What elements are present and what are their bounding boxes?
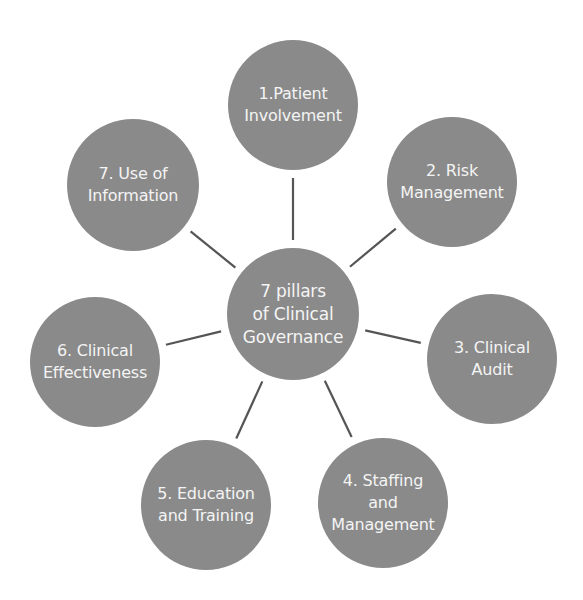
pillar-label-line: Information [88, 185, 178, 207]
pillar-label-line: 7. Use of [88, 163, 178, 185]
pillar-label-line: 1.Patient [244, 83, 342, 105]
pillar-clinical-audit: 3. Clinical Audit [427, 294, 557, 424]
pillar-label-line: Management [331, 514, 434, 536]
pillar-label-line: Effectiveness [43, 362, 147, 384]
connector-line [365, 330, 421, 343]
pillar-label-line: 5. Education [157, 483, 255, 505]
pillar-label-line: Management [400, 182, 503, 204]
connector-line [350, 229, 396, 267]
pillar-label-line: and [331, 492, 434, 514]
connector-line [325, 381, 352, 437]
center-label-line: Governance [243, 326, 344, 349]
connector-line [236, 381, 262, 438]
pillar-clinical-effectiveness: 6. Clinical Effectiveness [30, 297, 160, 427]
pillar-label-line: 3. Clinical [454, 337, 530, 359]
pillar-label-line: Audit [454, 359, 530, 381]
pillar-label-line: 4. Staffing [331, 470, 434, 492]
connector-line [166, 331, 221, 344]
pillar-label-line: 2. Risk [400, 160, 503, 182]
pillar-label-line: 6. Clinical [43, 340, 147, 362]
pillar-education-and-training: 5. Education and Training [141, 440, 271, 570]
pillar-label-line: and Training [157, 505, 255, 527]
pillar-patient-involvement: 1.Patient Involvement [228, 40, 358, 170]
center-label-line: 7 pillars [243, 280, 344, 303]
center-node-seven-pillars: 7 pillars of Clinical Governance [227, 248, 359, 380]
pillar-risk-management: 2. Risk Management [387, 117, 517, 247]
connector-line [191, 231, 236, 267]
pillar-use-of-information: 7. Use of Information [67, 119, 199, 251]
clinical-governance-diagram: 7 pillars of Clinical Governance 1.Patie… [0, 0, 583, 600]
center-label-line: of Clinical [243, 303, 344, 326]
pillar-label-line: Involvement [244, 105, 342, 127]
pillar-staffing-and-management: 4. Staffing and Management [318, 438, 448, 568]
